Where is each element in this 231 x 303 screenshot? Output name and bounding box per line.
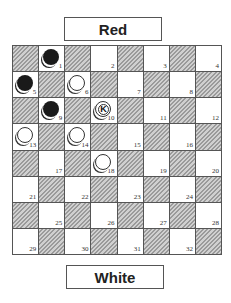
board-square-23[interactable]: 23: [118, 177, 143, 202]
board-square-30[interactable]: 30: [65, 229, 90, 254]
board-square-unplayable: [170, 98, 195, 123]
board-square-unplayable: [118, 151, 143, 176]
square-number: 20: [212, 168, 219, 175]
board-square-unplayable: [170, 46, 195, 71]
square-number: 15: [134, 142, 141, 149]
square-number: 3: [163, 63, 167, 70]
board-square-24[interactable]: 24: [170, 177, 195, 202]
square-number: 29: [29, 246, 36, 253]
board-square-unplayable: [91, 229, 116, 254]
board-square-unplayable: [65, 151, 90, 176]
square-number: 17: [55, 168, 62, 175]
board-square-unplayable: [13, 203, 38, 228]
board-square-28[interactable]: 28: [196, 203, 221, 228]
board-square-14[interactable]: 14: [65, 124, 90, 149]
board-square-unplayable: [13, 151, 38, 176]
board-square-3[interactable]: 3: [144, 46, 169, 71]
board-square-unplayable: [144, 124, 169, 149]
board-square-unplayable: [65, 98, 90, 123]
square-number: 14: [81, 142, 88, 149]
board-square-31[interactable]: 31: [118, 229, 143, 254]
square-number: 30: [81, 246, 88, 253]
board-square-13[interactable]: 13: [13, 124, 38, 149]
board-square-unplayable: [39, 177, 64, 202]
board-square-unplayable: [196, 177, 221, 202]
board-square-12[interactable]: 12: [196, 98, 221, 123]
board-square-21[interactable]: 21: [13, 177, 38, 202]
square-number: 10: [108, 115, 115, 122]
board-square-1[interactable]: 1: [39, 46, 64, 71]
board-square-unplayable: [65, 203, 90, 228]
checkers-board: 123456789K101112131415161718192021222324…: [12, 45, 222, 255]
square-number: 19: [160, 168, 167, 175]
board-square-unplayable: [144, 229, 169, 254]
board-square-unplayable: [144, 72, 169, 97]
board-square-4[interactable]: 4: [196, 46, 221, 71]
square-number: 1: [59, 63, 63, 70]
square-number: 13: [29, 142, 36, 149]
board-square-unplayable: [196, 229, 221, 254]
board-square-unplayable: [91, 124, 116, 149]
board-square-18[interactable]: 18: [91, 151, 116, 176]
square-number: 22: [81, 194, 88, 201]
board-square-17[interactable]: 17: [39, 151, 64, 176]
square-number: 11: [160, 115, 167, 122]
board-square-27[interactable]: 27: [144, 203, 169, 228]
board-square-32[interactable]: 32: [170, 229, 195, 254]
board-square-unplayable: [13, 98, 38, 123]
white-player-label: White: [66, 265, 164, 289]
square-number: 28: [212, 220, 219, 227]
board-square-26[interactable]: 26: [91, 203, 116, 228]
board-square-25[interactable]: 25: [39, 203, 64, 228]
board-square-9[interactable]: 9: [39, 98, 64, 123]
square-number: 32: [186, 246, 193, 253]
board-square-20[interactable]: 20: [196, 151, 221, 176]
board-square-22[interactable]: 22: [65, 177, 90, 202]
black-piece[interactable]: [43, 101, 59, 117]
board-square-6[interactable]: 6: [65, 72, 90, 97]
board-square-11[interactable]: 11: [144, 98, 169, 123]
board-square-5[interactable]: 5: [13, 72, 38, 97]
board-square-unplayable: [170, 151, 195, 176]
square-number: 16: [186, 142, 193, 149]
board-square-8[interactable]: 8: [170, 72, 195, 97]
board-square-unplayable: [118, 98, 143, 123]
square-number: 12: [212, 115, 219, 122]
board-square-unplayable: [170, 203, 195, 228]
board-square-unplayable: [196, 72, 221, 97]
board-square-unplayable: [65, 46, 90, 71]
square-number: 27: [160, 220, 167, 227]
board-square-29[interactable]: 29: [13, 229, 38, 254]
square-number: 8: [189, 89, 193, 96]
square-number: 24: [186, 194, 193, 201]
board-square-10[interactable]: K10: [91, 98, 116, 123]
board-square-unplayable: [144, 177, 169, 202]
square-number: 5: [33, 89, 37, 96]
square-number: 25: [55, 220, 62, 227]
board-square-2[interactable]: 2: [91, 46, 116, 71]
board-square-19[interactable]: 19: [144, 151, 169, 176]
square-number: 31: [134, 246, 141, 253]
square-number: 21: [29, 194, 36, 201]
square-number: 23: [134, 194, 141, 201]
black-piece[interactable]: [43, 49, 59, 65]
square-number: 9: [59, 115, 63, 122]
square-number: 4: [216, 63, 220, 70]
board-square-unplayable: [13, 46, 38, 71]
board-square-unplayable: [39, 229, 64, 254]
board-square-15[interactable]: 15: [118, 124, 143, 149]
board-square-7[interactable]: 7: [118, 72, 143, 97]
red-player-label: Red: [64, 17, 162, 41]
square-number: 26: [108, 220, 115, 227]
board-square-unplayable: [196, 124, 221, 149]
square-number: 2: [111, 63, 115, 70]
white-piece[interactable]: [69, 75, 85, 91]
board-square-unplayable: [39, 72, 64, 97]
square-number: 7: [137, 89, 141, 96]
black-piece[interactable]: [17, 75, 33, 91]
board-square-unplayable: [91, 177, 116, 202]
square-number: 18: [108, 168, 115, 175]
board-square-unplayable: [39, 124, 64, 149]
board-square-unplayable: [91, 72, 116, 97]
board-square-16[interactable]: 16: [170, 124, 195, 149]
